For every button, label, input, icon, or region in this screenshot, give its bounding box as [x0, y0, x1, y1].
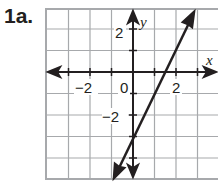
- x-tick-label-neg2: −2: [75, 79, 92, 96]
- line-bottom-arrow-icon: [114, 164, 124, 178]
- y-tick-label-pos2: 2: [115, 24, 123, 41]
- x-tick-label-pos2: 2: [172, 79, 180, 96]
- y-axis-label: y: [138, 14, 147, 30]
- coordinate-graph: −2 0 2 2 −2 y x: [0, 0, 218, 195]
- x-axis-label: x: [205, 52, 213, 68]
- line-top-arrow-icon: [183, 12, 194, 27]
- origin-label: 0: [120, 79, 128, 96]
- y-tick-label-neg2: −2: [102, 108, 119, 125]
